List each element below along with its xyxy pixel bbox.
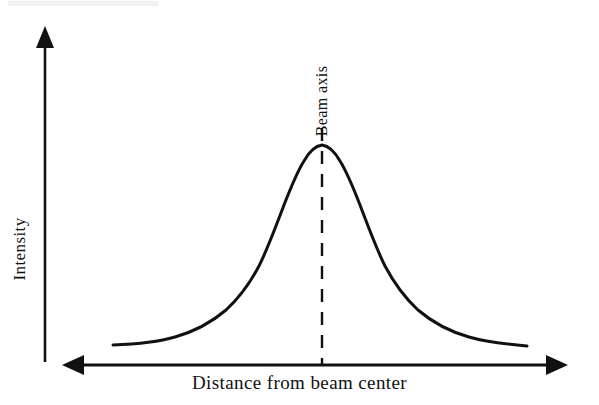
- x-axis-label-text: Distance from beam center: [192, 372, 407, 393]
- beam-axis-annotation: Beam axis: [300, 52, 344, 152]
- y-axis-label-text: Intensity: [10, 205, 30, 293]
- x-axis-label: Distance from beam center: [0, 372, 599, 394]
- y-axis-arrowhead-icon: [36, 26, 54, 48]
- y-axis-label: Intensity: [0, 180, 40, 320]
- beam-axis-label-text: Beam axis: [313, 57, 331, 145]
- beam-intensity-figure: Intensity Beam axis Distance from beam c…: [0, 0, 599, 405]
- intensity-profile-curve: [113, 145, 527, 346]
